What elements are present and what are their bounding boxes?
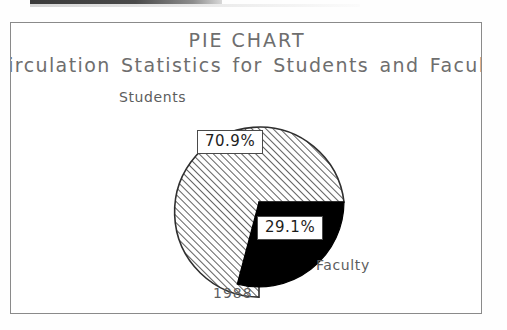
pie-label-year: 1988 (213, 285, 253, 301)
pie-label-faculty: Faculty (316, 257, 370, 273)
pie-value-faculty: 29.1% (257, 216, 323, 240)
pie-chart (11, 23, 482, 314)
scan-artifact-haze (30, 4, 360, 7)
pie-chart-svg (11, 23, 482, 314)
chart-frame: PIE CHART Circulation Statistics for Stu… (10, 22, 482, 314)
pie-value-students: 70.9% (197, 130, 263, 154)
page-canvas: PIE CHART Circulation Statistics for Stu… (0, 0, 507, 330)
pie-label-students: Students (119, 89, 186, 105)
